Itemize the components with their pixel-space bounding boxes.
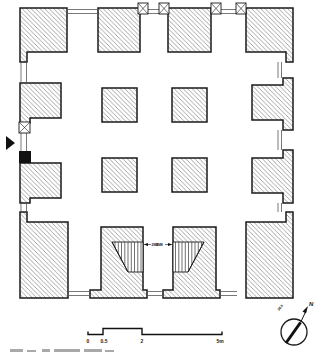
scale-tick-0: 0 xyxy=(87,338,90,344)
window-symbol-icon xyxy=(236,3,246,14)
left-wall-pier-upper xyxy=(20,83,61,123)
top-wall-pier-left xyxy=(98,8,140,52)
window-symbol-icon xyxy=(159,3,169,14)
stair-label-right: 2M8 xyxy=(156,243,173,247)
scale-tick-5m: 5m xyxy=(216,338,224,344)
interior-column xyxy=(102,88,137,122)
window-symbol-icon xyxy=(19,122,30,133)
floor-plan: 2M8 2M8 0 0.5 2 5m N 38.9 xyxy=(0,0,319,353)
corner-pier-top-left xyxy=(20,8,67,62)
interior-column xyxy=(102,158,137,192)
north-label: N xyxy=(309,301,314,307)
compass-icon: N 38.9 xyxy=(277,301,314,345)
corner-pier-top-right xyxy=(246,8,293,62)
left-wall-pier-lower xyxy=(20,163,61,203)
scale-bar: 0 0.5 2 5m xyxy=(87,329,225,345)
corner-pier-bottom-right xyxy=(246,212,293,298)
stair-label-right-text: 2M8 xyxy=(156,243,163,247)
entrance-arrow-icon xyxy=(6,136,15,150)
right-wall-pier-upper xyxy=(252,78,293,130)
corner-pier-bottom-left xyxy=(20,212,68,298)
scale-tick-05: 0.5 xyxy=(101,338,108,344)
declination-label: 38.9 xyxy=(277,304,284,312)
interior-column xyxy=(172,158,207,192)
scanned-plan-page: 2M8 2M8 0 0.5 2 5m N 38.9 xyxy=(0,0,319,353)
cropped-caption xyxy=(10,349,114,352)
section-marker xyxy=(19,151,31,163)
right-wall-pier-lower xyxy=(252,150,293,203)
scale-tick-2: 2 xyxy=(141,338,144,344)
interior-column xyxy=(172,88,207,122)
window-symbol-icon xyxy=(211,3,221,14)
window-symbol-icon xyxy=(138,3,148,14)
top-wall-pier-right xyxy=(168,8,211,52)
